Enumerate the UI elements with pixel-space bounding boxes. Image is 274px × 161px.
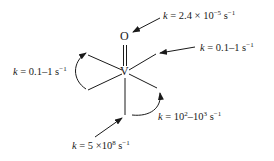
unit-exponent: −1 bbox=[59, 65, 66, 73]
arrow-bottom bbox=[95, 118, 122, 137]
rate-label-left: k = 0.1–1 s−1 bbox=[13, 67, 67, 78]
bond-upper-right bbox=[129, 54, 156, 70]
arrow-lower-right-curve bbox=[132, 93, 160, 115]
arrow-upper-right bbox=[160, 47, 195, 53]
rate-label-oxo: k = 2.4 × 10−5 s−1 bbox=[163, 11, 235, 22]
rate-value: = 2.4 × 10 bbox=[168, 10, 214, 21]
unit: s bbox=[207, 111, 214, 122]
unit-exponent: −1 bbox=[246, 41, 253, 49]
exponent: −5 bbox=[214, 9, 221, 17]
rate-label-lower-right: k = 102–103 s−1 bbox=[158, 112, 221, 123]
unit-exponent: −1 bbox=[214, 110, 221, 118]
rate-range: –10 bbox=[188, 111, 204, 122]
arrow-left-curve bbox=[76, 53, 87, 89]
vanadium-atom: V bbox=[120, 65, 129, 77]
unit-exponent: −1 bbox=[228, 9, 235, 17]
unit: s bbox=[221, 10, 228, 21]
rate-value: = 0.1–1 s bbox=[205, 42, 247, 53]
bond-lower-right bbox=[129, 74, 157, 88]
arrow-oxo bbox=[133, 18, 160, 32]
rate-value: = 0.1–1 s bbox=[18, 66, 60, 77]
rate-value: = 5 ×10 bbox=[77, 140, 112, 151]
vanadium-complex-structure bbox=[0, 0, 274, 161]
rate-value: = 10 bbox=[163, 111, 185, 122]
rate-label-bottom: k = 5 ×108 s−1 bbox=[72, 141, 130, 152]
bond-lower-left bbox=[88, 74, 122, 90]
oxygen-atom: O bbox=[120, 30, 129, 42]
bond-upper-left bbox=[88, 55, 122, 70]
rate-label-upper-right: k = 0.1–1 s−1 bbox=[200, 43, 254, 54]
unit-exponent: −1 bbox=[122, 139, 129, 147]
